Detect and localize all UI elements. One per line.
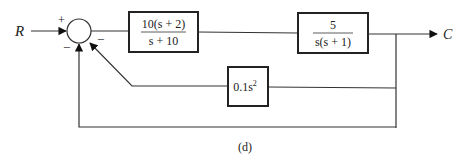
h1-label: 0.1s [233,80,253,94]
g2-denominator: s(s + 1) [315,35,351,49]
line-pickoff-to-h1 [268,87,396,88]
input-label-r: R [14,23,24,39]
summing-junction [67,19,91,43]
sign-plus: + [58,13,65,27]
block-h1: 0.1s2 [228,67,268,106]
sign-minus-outer: − [63,40,70,55]
block-diagram: R + − − 10(s + 2) s + 10 5 s(s + 1) C 0.… [0,0,472,160]
output-label-c: C [443,27,453,42]
g2-numerator: 5 [330,18,336,32]
caption: (d) [238,140,252,154]
g1-denominator: s + 10 [149,34,178,48]
h1-exponent: 2 [253,79,257,88]
block-g1: 10(s + 2) s + 10 [129,12,198,52]
block-g2: 5 s(s + 1) [298,13,368,53]
g1-numerator: 10(s + 2) [142,17,185,31]
sign-minus-inner: − [97,32,104,47]
line-g1-to-g2 [198,32,298,33]
